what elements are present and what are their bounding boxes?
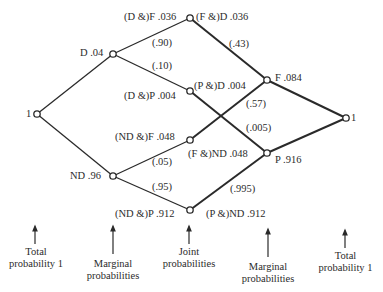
caption-line: Joint bbox=[152, 246, 226, 258]
cond-P-D-label: (.005) bbox=[246, 122, 271, 134]
node-root bbox=[34, 111, 40, 117]
caption-line: Marginal bbox=[76, 258, 150, 270]
caption-marginal-right: Marginal probabilities bbox=[231, 261, 305, 285]
edge-PND-P bbox=[190, 153, 267, 210]
cond-F-ND-label: (.57) bbox=[246, 98, 266, 110]
cond-P-ND-label: (.995) bbox=[230, 183, 255, 195]
node-F bbox=[264, 77, 270, 83]
joint-FD-label: (F &)D .036 bbox=[196, 11, 248, 23]
edge-F-end bbox=[267, 80, 346, 118]
caption-line: probability 1 bbox=[308, 262, 383, 274]
node-DF bbox=[187, 15, 193, 21]
node-NDF bbox=[187, 137, 193, 143]
cond-D-F-label: (.90) bbox=[152, 37, 172, 49]
marginal-D-label: D .04 bbox=[80, 47, 103, 59]
marginal-P-label: P .916 bbox=[275, 154, 301, 166]
caption-total-right: Total probability 1 bbox=[308, 250, 383, 274]
cond-ND-F-label: (.05) bbox=[152, 156, 172, 168]
joint-DF-label: (D &)F .036 bbox=[124, 11, 176, 23]
caption-line: Marginal bbox=[231, 261, 305, 273]
caption-total-left: Total probability 1 bbox=[0, 246, 72, 270]
joint-NDF-label: (ND &)F .048 bbox=[115, 131, 175, 143]
node-end bbox=[343, 115, 349, 121]
marginal-F-label: F .084 bbox=[275, 72, 302, 84]
end-label: 1 bbox=[351, 112, 356, 124]
caption-line: probabilities bbox=[76, 270, 150, 282]
edge-root-ND bbox=[37, 114, 113, 176]
node-D bbox=[110, 51, 116, 57]
node-ND bbox=[110, 173, 116, 179]
arrowhead-marginal-right bbox=[266, 229, 270, 234]
node-NDP bbox=[187, 207, 193, 213]
cond-D-P-label: (.10) bbox=[152, 60, 172, 72]
caption-line: probabilities bbox=[231, 273, 305, 285]
caption-joint: Joint probabilities bbox=[152, 246, 226, 270]
cond-ND-P-label: (.95) bbox=[152, 181, 172, 193]
caption-line: probabilities bbox=[152, 258, 226, 270]
arrowhead-joint bbox=[187, 226, 191, 231]
caption-line: probability 1 bbox=[0, 258, 72, 270]
edge-P-end bbox=[267, 118, 346, 153]
node-DP bbox=[187, 88, 193, 94]
node-P bbox=[264, 150, 270, 156]
cond-F-D-label: (.43) bbox=[229, 38, 249, 50]
arrowhead-total-right bbox=[343, 230, 347, 235]
joint-DP-label: (D &)P .004 bbox=[124, 90, 176, 102]
joint-NDP-label: (ND &)P .912 bbox=[115, 208, 174, 220]
caption-line: Total bbox=[308, 250, 383, 262]
edge-root-D bbox=[37, 54, 113, 114]
arrowhead-total-left bbox=[33, 226, 37, 231]
caption-line: Total bbox=[0, 246, 72, 258]
joint-PD-label: (P &)D .004 bbox=[194, 80, 246, 92]
joint-PND-label: (P &)ND .912 bbox=[206, 208, 265, 220]
caption-marginal-left: Marginal probabilities bbox=[76, 258, 150, 282]
arrowhead-marginal-left bbox=[111, 226, 115, 231]
root-label: 1 bbox=[26, 108, 31, 120]
joint-FND-label: (F &)ND .048 bbox=[188, 148, 248, 160]
marginal-ND-label: ND .96 bbox=[70, 170, 101, 182]
